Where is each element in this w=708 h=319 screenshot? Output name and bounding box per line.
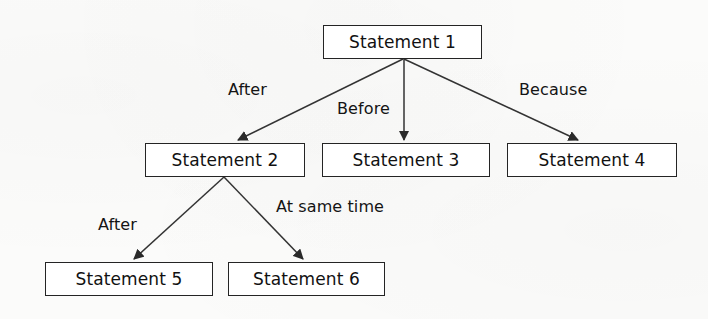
- edge-s2-to-s5: [134, 177, 224, 259]
- node-statement-6[interactable]: Statement 6: [228, 262, 385, 296]
- node-label: Statement 5: [76, 269, 183, 289]
- node-statement-1[interactable]: Statement 1: [323, 25, 482, 59]
- node-label: Statement 6: [253, 269, 360, 289]
- diagram-canvas: Statement 1 Statement 2 Statement 3 Stat…: [0, 0, 708, 319]
- edge-label-before-s1-s3: Before: [337, 99, 390, 118]
- edge-label-after-s1-s2: After: [228, 80, 267, 99]
- node-statement-4[interactable]: Statement 4: [507, 143, 677, 177]
- node-label: Statement 1: [349, 32, 456, 52]
- node-statement-3[interactable]: Statement 3: [322, 143, 490, 177]
- node-statement-5[interactable]: Statement 5: [45, 262, 213, 296]
- node-statement-2[interactable]: Statement 2: [145, 143, 305, 177]
- edge-label-at-same-time-s2-s6: At same time: [276, 197, 384, 216]
- node-label: Statement 2: [172, 150, 279, 170]
- edge-s2-to-s6: [224, 177, 303, 259]
- node-label: Statement 4: [539, 150, 646, 170]
- node-label: Statement 3: [353, 150, 460, 170]
- edge-s1-to-s4: [404, 59, 578, 140]
- edge-label-after-s2-s5: After: [98, 215, 137, 234]
- edge-label-because-s1-s4: Because: [519, 80, 587, 99]
